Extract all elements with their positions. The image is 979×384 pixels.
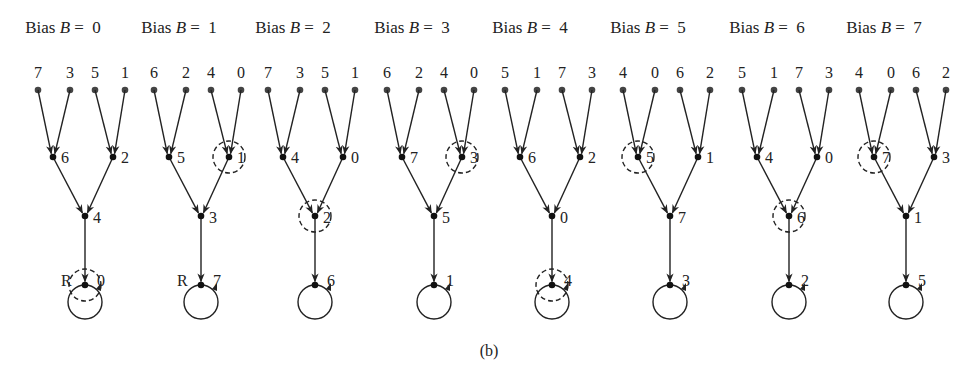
root-label: 2 [801,272,809,289]
level1-label: 0 [351,149,359,166]
tree-node [166,154,173,161]
tree-node [549,282,556,289]
level1-label: 4 [291,149,299,166]
level1-label: 5 [646,149,654,166]
leaf-label: 1 [770,64,778,81]
self-loop [298,285,332,319]
level1-label: 3 [942,149,950,166]
level1-label: 3 [470,149,478,166]
tree-node [82,282,89,289]
leaf-label: 1 [351,64,359,81]
leaf-label: 3 [588,64,596,81]
level1-label: 6 [61,149,69,166]
leaf-label: 2 [182,64,190,81]
leaf-label: 7 [34,64,42,81]
leaf-label: 3 [296,64,304,81]
level1-label: 2 [588,149,596,166]
tree-node [110,154,117,161]
tree-node [198,213,205,220]
level1-label: 2 [121,149,129,166]
self-loop [68,285,102,319]
self-loop [184,285,218,319]
tree-bias-0: Bias B = 073516240R [25,18,129,319]
level1-label: 4 [765,149,773,166]
self-loop [653,285,687,319]
tree-node [226,154,233,161]
leaf-label: 6 [150,64,158,81]
level1-label: 1 [706,149,714,166]
level2-label: 2 [323,209,331,226]
tree-title: Bias B = 0 [25,18,101,37]
leaf-label: 1 [121,64,129,81]
leaf-label: 5 [501,64,509,81]
tree-node [667,282,674,289]
bias-trees-diagram: Bias B = 073516240RBias B = 162405137RBi… [0,0,979,384]
leaf-label: 0 [651,64,659,81]
level2-label: 7 [678,209,686,226]
self-loop [535,285,569,319]
self-loop [417,285,451,319]
tree-node [312,282,319,289]
tree-node [82,213,89,220]
tree-bias-3: Bias B = 362407351 [374,18,478,319]
tree-bias-1: Bias B = 162405137R [141,18,245,319]
leaf-label: 5 [91,64,99,81]
tree-bias-7: Bias B = 740627315 [846,18,950,319]
level2-label: 1 [914,209,922,226]
root-label: 7 [213,272,221,289]
leaf-label: 2 [942,64,950,81]
root-marker-label: R [61,272,72,289]
leaf-label: 7 [558,64,566,81]
tree-node [754,154,761,161]
tree-node [431,213,438,220]
tree-node [667,213,674,220]
level1-label: 5 [177,149,185,166]
tree-title: Bias B = 4 [492,18,568,37]
leaf-label: 5 [738,64,746,81]
tree-node [280,154,287,161]
leaf-label: 7 [264,64,272,81]
leaf-label: 6 [912,64,920,81]
tree-node [50,154,57,161]
tree-title: Bias B = 1 [141,18,217,37]
root-label: 5 [918,272,926,289]
tree-node [198,282,205,289]
level2-label: 3 [209,209,217,226]
tree-title: Bias B = 3 [374,18,450,37]
level1-label: 6 [528,149,536,166]
level2-label: 4 [93,209,101,226]
figure-caption: (b) [480,342,499,360]
leaf-label: 2 [415,64,423,81]
tree-node [517,154,524,161]
tree-node [312,213,319,220]
leaf-label: 4 [440,64,448,81]
tree-node [549,213,556,220]
root-label: 1 [446,272,454,289]
leaf-label: 6 [383,64,391,81]
level2-label: 6 [797,209,805,226]
tree-node [340,154,347,161]
leaf-label: 3 [825,64,833,81]
leaf-label: 4 [855,64,863,81]
tree-title: Bias B = 6 [729,18,805,37]
tree-node [814,154,821,161]
leaf-label: 6 [676,64,684,81]
level2-label: 5 [442,209,450,226]
leaf-label: 1 [533,64,541,81]
root-marker-label: R [177,272,188,289]
tree-node [786,213,793,220]
leaf-label: 7 [795,64,803,81]
tree-node [459,154,466,161]
leaf-label: 4 [207,64,215,81]
tree-node [431,282,438,289]
tree-node [903,213,910,220]
tree-node [786,282,793,289]
root-label: 6 [327,272,335,289]
leaf-label: 0 [470,64,478,81]
level1-label: 0 [825,149,833,166]
tree-bias-4: Bias B = 451736204 [492,18,596,319]
level1-label: 7 [882,149,890,166]
tree-bias-6: Bias B = 651734062 [729,18,833,319]
leaf-label: 4 [619,64,627,81]
root-label: 3 [682,272,690,289]
